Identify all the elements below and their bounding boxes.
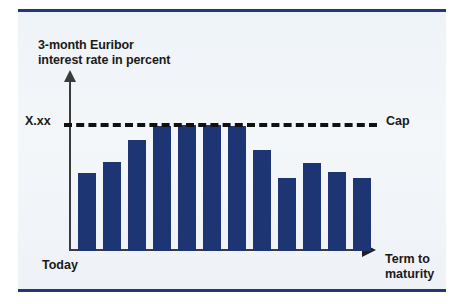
cap-value-label: X.xx <box>25 114 51 128</box>
chart-figure: 3-month Euribor interest rate in percent… <box>0 0 464 304</box>
bar-rate-2 <box>103 162 121 251</box>
bar-rate-12 <box>353 178 371 251</box>
bar-rate-6 <box>203 125 221 251</box>
bar-rate-4 <box>153 126 171 251</box>
x-axis-label: Term to maturity <box>385 252 434 282</box>
cap-label: Cap <box>386 114 410 128</box>
bar-rate-1 <box>78 173 96 251</box>
chart-title: 3-month Euribor interest rate in percent <box>38 38 170 69</box>
origin-label: Today <box>42 258 78 272</box>
bar-rate-10 <box>303 163 321 251</box>
bar-rate-9 <box>278 178 296 251</box>
bar-rate-11 <box>328 172 346 251</box>
plot-area: 3-month Euribor interest rate in percent… <box>0 0 464 304</box>
bar-rate-3 <box>128 140 146 251</box>
bar-rate-7 <box>228 126 246 251</box>
bar-rate-5 <box>178 125 196 251</box>
bar-rate-8 <box>253 150 271 251</box>
cap-threshold-line <box>64 123 377 127</box>
